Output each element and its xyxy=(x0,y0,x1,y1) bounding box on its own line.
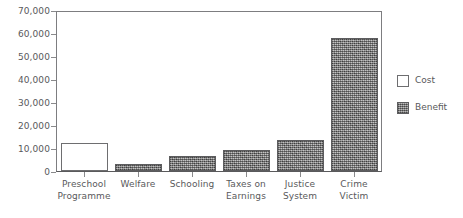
y-axis-tick-mark xyxy=(51,11,56,12)
y-axis-tick-mark xyxy=(51,103,56,104)
legend-label: Cost xyxy=(415,76,435,85)
legend-swatch-benefit-icon xyxy=(397,102,409,114)
y-axis-tick-mark xyxy=(51,34,56,35)
legend-item-benefit[interactable]: Benefit xyxy=(397,101,463,114)
x-axis-tick-mark xyxy=(246,172,247,177)
x-axis-tick-mark xyxy=(138,172,139,177)
y-axis-tick-mark xyxy=(51,57,56,58)
y-axis-tick-mark xyxy=(51,126,56,127)
x-axis-tick-mark xyxy=(354,172,355,177)
x-axis-tick-mark xyxy=(192,172,193,177)
x-axis-tick-label: Taxes on Earnings xyxy=(226,179,266,202)
bar-schooling[interactable] xyxy=(169,156,216,171)
x-axis-tick-label: Preschool Programme xyxy=(57,179,110,202)
bar-preschool-programme[interactable] xyxy=(61,143,108,171)
y-axis-tick-label: 70,000 xyxy=(18,7,50,16)
x-axis-tick-mark xyxy=(300,172,301,177)
legend-swatch-cost-icon xyxy=(397,75,409,87)
y-axis-tick-mark xyxy=(51,149,56,150)
bar-crime-victim[interactable] xyxy=(331,38,378,171)
x-axis-tick-label: Schooling xyxy=(170,179,215,191)
bar-welfare[interactable] xyxy=(115,164,162,171)
y-axis-tick-label: 10,000 xyxy=(18,145,50,154)
y-axis-tick-label: 20,000 xyxy=(18,122,50,131)
x-axis-tick-mark xyxy=(84,172,85,177)
y-axis-tick-label: 40,000 xyxy=(18,76,50,85)
x-axis-tick-label: Welfare xyxy=(121,179,156,191)
y-axis-tick-label: 50,000 xyxy=(18,53,50,62)
x-axis-tick-label: Justice System xyxy=(283,179,317,202)
y-axis: 70,00060,00050,00040,00030,00020,00010,0… xyxy=(0,0,50,218)
bar-chart: 70,00060,00050,00040,00030,00020,00010,0… xyxy=(0,0,463,218)
x-axis-tick-label: Crime Victim xyxy=(340,179,369,202)
legend: CostBenefit xyxy=(397,74,463,128)
legend-label: Benefit xyxy=(415,103,447,112)
y-axis-tick-label: 0 xyxy=(44,168,50,177)
bar-justice-system[interactable] xyxy=(277,140,324,171)
legend-item-cost[interactable]: Cost xyxy=(397,74,463,87)
y-axis-tick-label: 60,000 xyxy=(18,30,50,39)
bars-layer xyxy=(57,11,381,171)
y-axis-tick-label: 30,000 xyxy=(18,99,50,108)
y-axis-tick-mark xyxy=(51,172,56,173)
bar-taxes-on-earnings[interactable] xyxy=(223,150,270,171)
y-axis-tick-mark xyxy=(51,80,56,81)
